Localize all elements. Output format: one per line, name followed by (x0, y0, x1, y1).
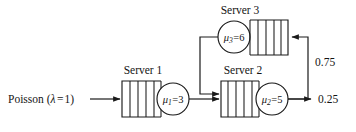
arrival-source-group: Poisson (λ=1) (8, 93, 120, 106)
server-2-group: Server 2 μ2=5 (221, 64, 288, 117)
server-2-title: Server 2 (224, 64, 263, 76)
server-3-group: Server 3 μ3=6 (218, 4, 288, 55)
network-svg: Poisson (λ=1) Server 1 μ1=3 Server 3 (0, 0, 356, 132)
server3-to-server2-path (200, 37, 219, 94)
feedback-path-075 (288, 37, 308, 99)
server-3-queue-box (250, 20, 288, 55)
queueing-network-diagram: Poisson (λ=1) Server 1 μ1=3 Server 3 (0, 0, 356, 132)
server-1-group: Server 1 μ1=3 (122, 64, 189, 117)
server-1-title: Server 1 (124, 64, 163, 76)
server-1-queue-box (122, 81, 161, 117)
server-2-queue-box (221, 81, 259, 117)
server-3-title: Server 3 (221, 4, 260, 16)
feedback-probability-label: 0.75 (315, 56, 335, 68)
departure-probability-label: 0.25 (318, 93, 338, 105)
arrival-source-label: Poisson (λ=1) (8, 93, 74, 106)
